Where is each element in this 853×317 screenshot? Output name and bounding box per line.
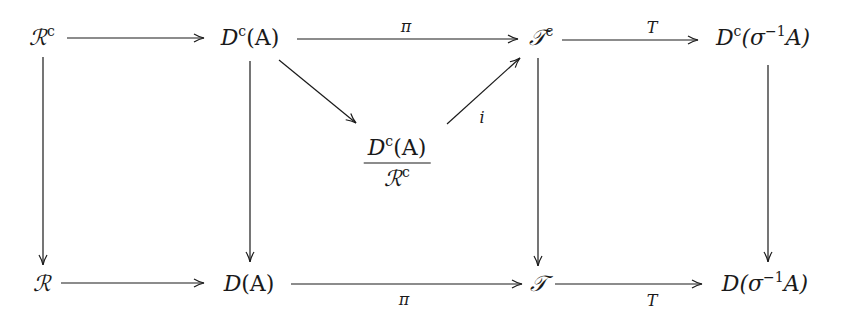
fraction-denominator: ℛc: [384, 164, 410, 190]
node-DSigmaA-inv: −1: [763, 269, 784, 285]
node-quotient: Dc(A) ℛc: [364, 137, 431, 190]
node-DcSigmaA-inv: −1: [765, 23, 786, 39]
node-Tc-base: 𝒯: [529, 25, 546, 50]
node-DcA: Dc(A): [221, 27, 280, 49]
commutative-diagram: ℛc Dc(A) 𝒯c Dc(σ−1A) Dc(A) ℛc ℛ D(A) 𝒯 D…: [0, 0, 853, 317]
node-DA-tail: (A): [241, 271, 274, 296]
node-DSigmaA: D(σ−1A): [722, 273, 808, 295]
fraction: Dc(A) ℛc: [364, 137, 431, 190]
node-DcSigmaA: Dc(σ−1A): [716, 27, 810, 49]
node-DcSigmaA-open: (σ: [741, 25, 765, 50]
node-DSigmaA-open: (σ: [739, 271, 763, 296]
node-Tc: 𝒯c: [529, 27, 554, 49]
node-Rc-sup: c: [47, 23, 55, 39]
label-T-bottom: T: [647, 291, 658, 310]
node-DSigmaA-base: D: [722, 271, 740, 296]
node-DcSigmaA-close: A): [786, 25, 810, 50]
den-sup: c: [402, 164, 410, 180]
node-DSigmaA-close: A): [784, 271, 808, 296]
node-Rc-base: ℛ: [29, 25, 47, 50]
node-R-base: ℛ: [33, 271, 51, 296]
label-pi-top: π: [401, 17, 412, 36]
label-T-top: T: [647, 18, 658, 37]
label-pi-bottom: π: [399, 290, 410, 309]
num-base: D: [368, 135, 386, 160]
node-Rc: ℛc: [29, 27, 55, 49]
arrow-DcA-to-quotient: [279, 60, 356, 123]
node-DA-base: D: [224, 271, 242, 296]
node-T-base: 𝒯: [530, 271, 547, 296]
node-Tc-sup: c: [546, 23, 554, 39]
node-DcA-tail: (A): [246, 25, 279, 50]
node-R: ℛ: [33, 273, 51, 295]
fraction-numerator: Dc(A): [364, 137, 431, 164]
label-i: i: [479, 108, 484, 127]
node-T: 𝒯: [530, 273, 547, 295]
node-DcA-base: D: [221, 25, 239, 50]
num-tail: (A): [393, 135, 426, 160]
den-base: ℛ: [384, 166, 402, 191]
node-DA: D(A): [224, 273, 275, 295]
node-DcSigmaA-base: D: [716, 25, 734, 50]
